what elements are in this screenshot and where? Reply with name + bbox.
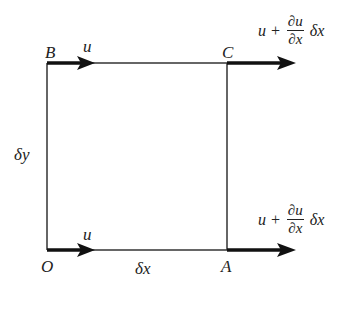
velocity-suffix: δx	[310, 22, 325, 40]
velocity-base: u +	[258, 22, 281, 40]
point-label-O: O	[41, 258, 53, 275]
dimension-dy: δy	[14, 146, 29, 163]
derivative-denominator: ∂x	[288, 220, 302, 236]
velocity-suffix: δx	[310, 211, 325, 229]
velocity-base: u +	[258, 211, 281, 229]
derivative-denominator: ∂x	[288, 31, 302, 47]
velocity-label-C: u + ∂u ∂x δx	[258, 14, 324, 47]
velocity-label-O: u	[83, 226, 92, 243]
velocity-label-A: u + ∂u ∂x δx	[258, 203, 324, 236]
derivative-numerator: ∂u	[287, 203, 304, 220]
dimension-dx: δx	[135, 260, 150, 277]
velocity-label-B: u	[83, 38, 92, 55]
point-label-C: C	[222, 44, 233, 61]
derivative-numerator: ∂u	[287, 14, 304, 31]
point-label-A: A	[221, 258, 231, 275]
point-label-B: B	[45, 44, 55, 61]
partial-derivative: ∂u ∂x	[287, 14, 304, 47]
partial-derivative: ∂u ∂x	[287, 203, 304, 236]
